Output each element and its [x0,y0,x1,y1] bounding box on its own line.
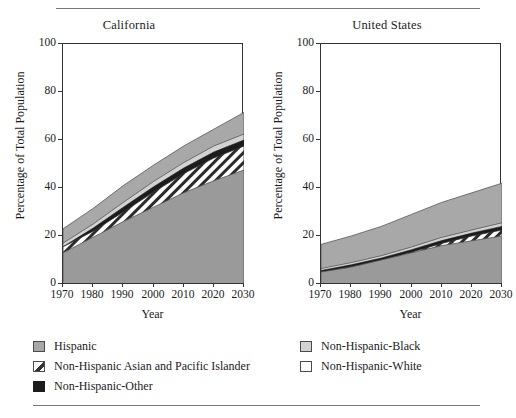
legend-swatch-nonhispanic-other-icon [33,381,45,392]
legend-swatch-nonhispanic-white-icon [300,361,312,372]
x-tick-1980-california: 1980 [75,288,109,300]
legend-item-nonhispanic-other: Non-Hispanic-Other [33,376,250,396]
legend-item-asian-pacific-islander: Non-Hispanic Asian and Pacific Islander [33,356,250,376]
x-tick-1990-united-states: 1990 [363,288,397,300]
legend-swatch-asian-pacific-islander-icon [33,361,45,372]
legend-label-hispanic: Hispanic [54,339,97,354]
bottom-divider-rule [33,405,480,406]
x-tick-2030-united-states: 2030 [484,288,516,300]
y-tick-100: 100 [288,37,314,49]
panel-title-california: California [0,18,258,33]
y-tick-labels-california: 100 80 60 40 20 0 [26,43,56,283]
legend-label-nonhispanic-black: Non-Hispanic-Black [321,339,420,354]
legend-column-right: Non-Hispanic-Black Non-Hispanic-White [300,336,422,376]
chart-legend: Hispanic Non-Hispanic Asian and Pacific … [0,336,516,398]
y-tick-40: 40 [288,181,314,193]
legend-item-nonhispanic-black: Non-Hispanic-Black [300,336,422,356]
x-tick-2010-united-states: 2010 [424,288,458,300]
legend-swatch-hispanic-icon [33,341,45,352]
y-tick-20: 20 [30,229,56,241]
x-tick-2020-united-states: 2020 [454,288,488,300]
y-tick-80: 80 [30,85,56,97]
legend-column-left: Hispanic Non-Hispanic Asian and Pacific … [33,336,250,396]
plot-area-california [62,43,243,283]
stacked-area-svg-united-states [321,44,502,284]
plot-area-united-states [320,43,501,283]
x-axis-title-united-states: Year [320,307,501,322]
x-tick-2010-california: 2010 [166,288,200,300]
legend-label-nonhispanic-white: Non-Hispanic-White [321,359,422,374]
y-tick-0: 0 [288,277,314,289]
x-tick-1970-california: 1970 [45,288,79,300]
y-tick-60: 60 [288,133,314,145]
y-tick-labels-united-states: 100 80 60 40 20 0 [284,43,314,283]
stacked-area-svg-california [63,44,244,284]
legend-item-hispanic: Hispanic [33,336,250,356]
legend-label-nonhispanic-other: Non-Hispanic-Other [54,379,153,394]
legend-swatch-nonhispanic-black-icon [300,341,312,352]
x-tick-2030-california: 2030 [226,288,260,300]
x-tick-2000-united-states: 2000 [394,288,428,300]
x-tick-1970-united-states: 1970 [303,288,337,300]
x-tick-2000-california: 2000 [136,288,170,300]
legend-item-nonhispanic-white: Non-Hispanic-White [300,356,422,376]
chart-panel-california: California Percentage of Total Populatio… [0,18,258,308]
top-divider-rule [56,8,480,9]
chart-panel-united-states: United States Percentage of Total Popula… [258,18,516,308]
x-tick-1990-california: 1990 [105,288,139,300]
x-tick-2020-california: 2020 [196,288,230,300]
y-tick-0: 0 [30,277,56,289]
y-tick-40: 40 [30,181,56,193]
x-tick-1980-united-states: 1980 [333,288,367,300]
panel-title-united-states: United States [258,18,516,33]
y-tick-60: 60 [30,133,56,145]
y-tick-80: 80 [288,85,314,97]
legend-label-asian-pacific-islander: Non-Hispanic Asian and Pacific Islander [54,359,250,374]
y-tick-100: 100 [30,37,56,49]
y-tick-20: 20 [288,229,314,241]
x-axis-title-california: Year [62,307,243,322]
